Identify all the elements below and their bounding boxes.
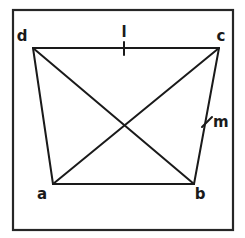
diagonal-d-b [33, 48, 194, 184]
vertex-label-b: b [195, 185, 206, 203]
diagonal-a-c [53, 48, 219, 184]
edge-a-d [33, 48, 53, 184]
segment-label-m: m [213, 113, 229, 131]
figure-container: d c a b l m [0, 0, 245, 238]
vertex-label-c: c [217, 27, 226, 45]
geometry-diagram: d c a b l m [0, 0, 245, 238]
segment-label-l: l [121, 23, 126, 41]
vertex-label-d: d [17, 27, 28, 45]
vertex-label-a: a [37, 185, 47, 203]
